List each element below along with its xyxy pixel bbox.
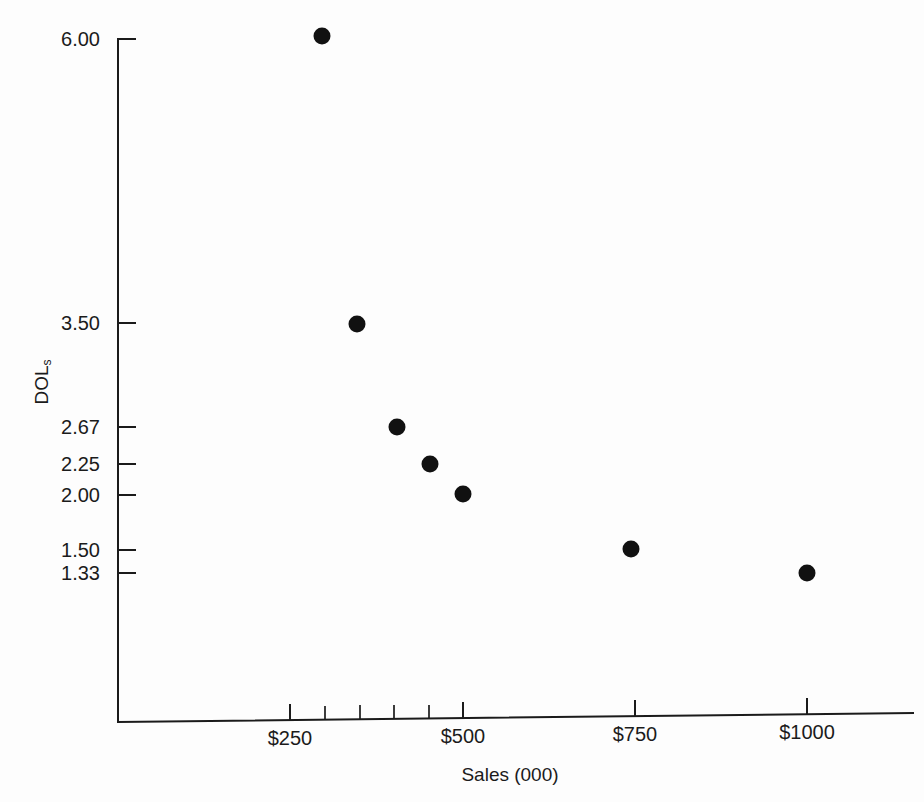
data-point-series <box>314 28 816 582</box>
data-point <box>422 456 439 473</box>
y-axis-title: DOLs <box>31 359 53 404</box>
data-point <box>455 486 472 503</box>
x-tick-label-750: $750 <box>613 723 658 746</box>
data-point <box>314 28 331 45</box>
data-point <box>389 419 406 436</box>
scatter-chart: 6.00 3.50 2.67 2.25 2.00 1.50 1.33 $250 … <box>0 0 924 802</box>
data-point <box>349 316 366 333</box>
y-tick-label-6-00: 6.00 <box>10 28 100 51</box>
y-axis-title-subscript: s <box>40 359 54 365</box>
plot-canvas <box>0 0 924 802</box>
y-tick-label-1-50: 1.50 <box>10 539 100 562</box>
y-axis-ticks <box>118 39 136 573</box>
x-tick-label-250: $250 <box>268 727 313 750</box>
y-tick-label-1-33: 1.33 <box>10 562 100 585</box>
x-tick-label-500: $500 <box>441 725 486 748</box>
y-tick-label-2-25: 2.25 <box>10 453 100 476</box>
y-tick-label-3-50: 3.50 <box>10 312 100 335</box>
data-point <box>623 541 640 558</box>
y-tick-label-2-67: 2.67 <box>10 416 100 439</box>
y-axis-title-text: DOL <box>31 365 52 404</box>
y-tick-label-2-00: 2.00 <box>10 484 100 507</box>
data-point <box>799 565 816 582</box>
x-tick-label-1000: $1000 <box>779 721 835 744</box>
x-axis-title: Sales (000) <box>461 764 558 786</box>
